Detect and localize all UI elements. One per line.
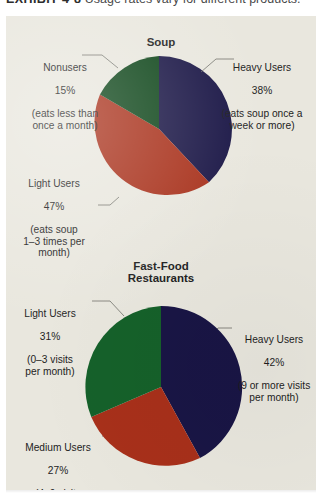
label-soup-nonusers-percent: 15% <box>16 85 114 97</box>
label-ff-medium-percent: 27% <box>12 465 104 477</box>
exhibit-caption-text: Usage rates vary for different products. <box>85 0 301 6</box>
exhibit-caption-label: EXHIBIT 4-8 <box>6 0 81 6</box>
label-ff-heavy-note: (9 or more visits per month) <box>228 380 316 403</box>
label-soup-nonusers-name: Nonusers <box>16 62 114 74</box>
label-soup-light-percent: 47% <box>8 201 100 213</box>
label-soup-heavy-note: (eats soup once a week or more) <box>210 108 314 131</box>
label-soup-nonusers-note: (eats less than once a month) <box>16 108 114 131</box>
chart-title-fast-food: Fast-Food Restaurants <box>6 260 316 284</box>
label-soup-light: Light Users 47% (eats soup 1–3 times per… <box>8 166 100 270</box>
label-ff-light-note: (0–3 visits per month) <box>6 354 94 377</box>
label-ff-light: Light Users 31% (0–3 visits per month) <box>6 296 94 389</box>
label-ff-heavy: Heavy Users 42% (9 or more visits per mo… <box>228 322 316 415</box>
label-soup-heavy-name: Heavy Users <box>210 62 314 74</box>
label-soup-heavy-percent: 38% <box>210 85 314 97</box>
chart-title-soup: Soup <box>6 36 316 48</box>
label-soup-light-name: Light Users <box>8 178 100 190</box>
exhibit-caption: EXHIBIT 4-8 Usage rates vary for differe… <box>0 0 322 14</box>
label-ff-light-name: Light Users <box>6 308 94 320</box>
label-soup-light-note: (eats soup 1–3 times per month) <box>8 224 100 259</box>
label-ff-light-percent: 31% <box>6 331 94 343</box>
label-ff-medium-note: (4–9 visits per month) <box>12 488 104 490</box>
label-soup-nonusers: Nonusers 15% (eats less than once a mont… <box>16 50 114 143</box>
label-ff-medium: Medium Users 27% (4–9 visits per month) <box>12 430 104 490</box>
exhibit-panel: Soup Nonusers 15% (eats less than once a… <box>6 16 316 490</box>
exhibit-figure: EXHIBIT 4-8 Usage rates vary for differe… <box>0 0 322 501</box>
label-ff-medium-name: Medium Users <box>12 442 104 454</box>
label-ff-heavy-percent: 42% <box>228 357 316 369</box>
label-soup-heavy: Heavy Users 38% (eats soup once a week o… <box>210 50 314 143</box>
label-ff-heavy-name: Heavy Users <box>228 334 316 346</box>
